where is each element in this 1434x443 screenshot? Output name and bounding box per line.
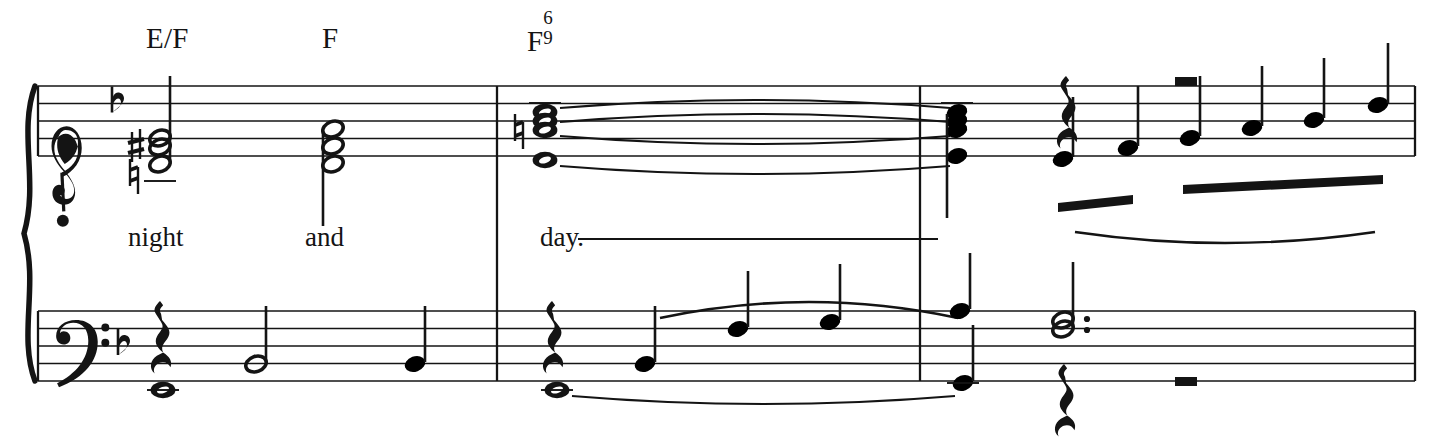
key-signature-flat-treble	[112, 87, 124, 113]
rests	[151, 76, 1197, 436]
lyric-night: night	[128, 222, 184, 253]
music-score	[0, 0, 1434, 443]
natural-accidental	[130, 159, 138, 194]
chord-half-m2	[321, 118, 346, 226]
quarter-note-bass-1	[633, 306, 658, 375]
chord-root: E/F	[146, 22, 189, 54]
lyric-and: and	[305, 222, 344, 253]
tie-bass-whole	[572, 396, 955, 404]
treble-clef	[51, 126, 81, 227]
chord-root: F	[527, 25, 543, 57]
beam-group-2	[1183, 175, 1383, 194]
chord-symbol-f: F	[322, 22, 338, 55]
slur-bass-phrase	[660, 302, 958, 318]
whole-note-bass-m1	[147, 382, 179, 398]
notehead-4	[533, 152, 558, 168]
sharp-accidental	[128, 129, 144, 162]
eighth-note-3	[1178, 76, 1203, 149]
chord-whole-m3	[515, 103, 561, 168]
eighth-note-2	[1116, 86, 1141, 159]
rest-half-bass-end	[1175, 377, 1197, 386]
beam-group-1	[1058, 195, 1133, 212]
half-note-bass-m1	[244, 306, 269, 375]
tie-voice-3	[560, 136, 950, 144]
tie-voice-4	[560, 166, 950, 174]
augmentation-dot	[1084, 316, 1090, 322]
rest-quarter-bass-end	[1055, 364, 1075, 436]
chord-quarter-m4	[941, 101, 973, 218]
ties-and-slurs	[560, 100, 1375, 404]
chord-symbol-e-over-f: E/F	[146, 22, 189, 55]
notes	[128, 43, 1390, 398]
bass-clef	[56, 320, 109, 387]
slur-eighth-run	[1075, 232, 1375, 243]
quarter-note-bass-5	[947, 325, 979, 394]
notehead-3	[533, 122, 558, 138]
lyric-day: day.	[540, 222, 584, 253]
barlines	[38, 86, 1415, 381]
chord-figures: 69	[543, 22, 556, 51]
quarter-note-bass-m2	[403, 306, 428, 375]
staff-lines	[38, 86, 1415, 381]
chord-half-m1	[128, 76, 176, 194]
clefs	[51, 87, 130, 388]
eighth-note-5	[1302, 58, 1327, 131]
rest-half-treble	[1175, 77, 1197, 86]
quarter-note-bass-3	[818, 264, 843, 333]
quarter-note-bass-4	[948, 253, 973, 322]
chord-root: F	[322, 22, 338, 54]
natural-accidental	[515, 114, 523, 149]
eighth-note-4	[1240, 66, 1265, 139]
eighth-note-6	[1366, 43, 1391, 116]
brace-curve	[24, 86, 35, 381]
beams	[1058, 175, 1383, 212]
chord-symbol-f-six-nine: F69	[527, 22, 556, 58]
whole-note-bass-m3	[541, 382, 573, 398]
chord-extension-upper: 6	[543, 7, 553, 29]
system-brace	[24, 86, 35, 381]
key-signature-flat-bass	[118, 329, 130, 355]
chord-extension-lower: 9	[543, 27, 553, 49]
augmentation-dot	[1084, 327, 1090, 333]
